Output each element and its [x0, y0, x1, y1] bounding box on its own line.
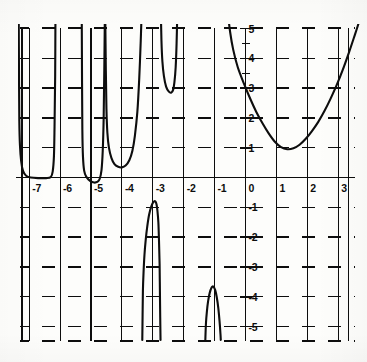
y-tick-label-4: 4: [249, 53, 255, 64]
x-tick-label-0: 0: [249, 183, 255, 194]
curve-branches: [19, 11, 365, 340]
x-tick-label-neg5: -5: [94, 183, 103, 194]
x-tick-label-neg4: -4: [125, 183, 134, 194]
y-tick-label-1: 1: [249, 143, 255, 154]
curve-branch-2: [82, 11, 105, 183]
y-tick-label-3: 3: [249, 83, 255, 94]
x-tick-label-neg3: -3: [156, 183, 165, 194]
x-tick-label-1: 1: [279, 183, 285, 194]
curve-branch-6: [142, 201, 160, 340]
function-plot: [0, 0, 367, 362]
curve-branch-4: [161, 11, 178, 93]
y-tick-label-neg2: -2: [249, 232, 258, 243]
y-tick-label-neg5: -5: [249, 322, 258, 333]
y-tick-label-5: 5: [249, 24, 255, 35]
curve-branch-7: [205, 286, 220, 339]
x-tick-label-neg6: -6: [63, 183, 72, 194]
x-tick-label-neg7: -7: [32, 183, 41, 194]
x-tick-label-3: 3: [341, 183, 347, 194]
y-tick-label-neg4: -4: [249, 292, 258, 303]
x-tick-label-neg2: -2: [187, 183, 196, 194]
curve-branch-3: [105, 11, 141, 168]
graph-figure: -7-6-5-4-3-2-10123 54321-1-2-3-4-5: [0, 0, 367, 362]
x-tick-label-neg1: -1: [218, 183, 227, 194]
curve-branch-1: [19, 11, 56, 179]
x-tick-label-2: 2: [310, 183, 316, 194]
y-tick-label-neg3: -3: [249, 262, 258, 273]
y-tick-label-neg1: -1: [249, 202, 258, 213]
y-tick-label-2: 2: [249, 113, 255, 124]
